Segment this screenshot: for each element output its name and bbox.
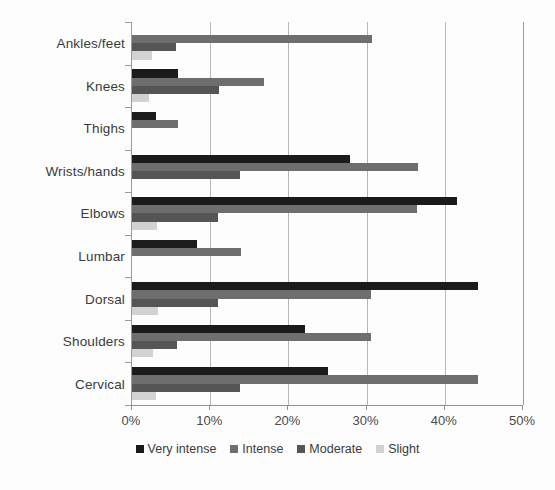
x-axis-tick-label: 30% — [353, 413, 379, 428]
bar — [132, 205, 417, 213]
bar-group — [132, 364, 555, 403]
legend-item: Moderate — [297, 442, 362, 456]
bar — [132, 78, 264, 86]
bar — [132, 341, 177, 349]
bar — [132, 222, 157, 230]
category-row: Lumbar — [0, 235, 555, 278]
legend-label: Moderate — [309, 442, 362, 456]
y-axis-tick — [125, 277, 131, 278]
x-axis-tick — [287, 405, 288, 410]
bar-group — [132, 194, 555, 233]
y-axis-tick — [125, 362, 131, 363]
legend-swatch-icon — [376, 445, 384, 453]
bar-group — [132, 322, 555, 361]
bar — [132, 35, 372, 43]
y-axis-tick — [125, 320, 131, 321]
x-axis-tick — [131, 405, 132, 410]
category-label: Wrists/hands — [45, 163, 125, 178]
category-label: Ankles/feet — [57, 36, 125, 51]
bar-chart: Ankles/feetKneesThighsWrists/handsElbows… — [0, 0, 555, 490]
category-row: Elbows — [0, 192, 555, 235]
bar — [132, 325, 305, 333]
bar — [132, 171, 240, 179]
category-row: Dorsal — [0, 277, 555, 320]
bar-group — [132, 67, 555, 106]
legend-label: Very intense — [148, 442, 217, 456]
legend-label: Slight — [388, 442, 419, 456]
x-axis-tick-label: 20% — [274, 413, 300, 428]
bar — [132, 248, 241, 256]
category-label: Elbows — [81, 206, 125, 221]
bar — [132, 155, 350, 163]
bar — [132, 282, 478, 290]
x-axis-tick — [209, 405, 210, 410]
bar — [132, 367, 328, 375]
x-axis-tick-label: 10% — [196, 413, 222, 428]
x-axis-tick — [444, 405, 445, 410]
bar — [132, 69, 178, 77]
y-axis-tick — [125, 65, 131, 66]
legend-swatch-icon — [230, 445, 238, 453]
x-axis-tick — [366, 405, 367, 410]
category-label: Thighs — [84, 121, 125, 136]
bar-group — [132, 109, 555, 148]
bar — [132, 163, 418, 171]
bar — [132, 94, 149, 102]
chart-legend: Very intenseIntenseModerateSlight — [0, 442, 555, 456]
bar — [132, 375, 478, 383]
legend-swatch-icon — [136, 445, 144, 453]
bar — [132, 307, 158, 315]
category-label: Shoulders — [63, 334, 125, 349]
category-label: Dorsal — [85, 291, 125, 306]
category-row: Wrists/hands — [0, 150, 555, 193]
bar — [132, 349, 153, 357]
bar — [132, 290, 371, 298]
category-row: Knees — [0, 65, 555, 108]
bar — [132, 384, 240, 392]
category-label: Knees — [86, 78, 125, 93]
legend-item: Very intense — [136, 442, 217, 456]
y-axis-tick — [125, 192, 131, 193]
bar-group — [132, 24, 555, 63]
y-axis-tick — [125, 150, 131, 151]
bar — [132, 333, 371, 341]
bar — [132, 392, 156, 400]
bar — [132, 51, 152, 59]
y-axis-tick — [125, 107, 131, 108]
legend-item: Slight — [376, 442, 419, 456]
x-axis-tick-label: 0% — [122, 413, 141, 428]
category-label: Lumbar — [78, 249, 125, 264]
bar-group — [132, 279, 555, 318]
bar — [132, 120, 178, 128]
legend-label: Intense — [242, 442, 283, 456]
legend-item: Intense — [230, 442, 283, 456]
bar — [132, 112, 156, 120]
bar — [132, 86, 219, 94]
bar — [132, 43, 176, 51]
category-row: Cervical — [0, 362, 555, 405]
x-axis-ticks: 0%10%20%30%40%50% — [0, 405, 555, 429]
y-axis-tick — [125, 22, 131, 23]
bar — [132, 197, 457, 205]
bar — [132, 213, 218, 221]
y-axis-tick — [125, 235, 131, 236]
x-axis-tick-label: 50% — [509, 413, 535, 428]
x-axis-tick — [522, 405, 523, 410]
category-rows: Ankles/feetKneesThighsWrists/handsElbows… — [0, 22, 555, 405]
category-row: Ankles/feet — [0, 22, 555, 65]
category-row: Shoulders — [0, 320, 555, 363]
category-label: Cervical — [75, 376, 125, 391]
bar — [132, 240, 197, 248]
x-axis-tick-label: 40% — [431, 413, 457, 428]
category-row: Thighs — [0, 107, 555, 150]
bar-group — [132, 152, 555, 191]
bar — [132, 299, 218, 307]
bar-group — [132, 237, 555, 276]
legend-swatch-icon — [297, 445, 305, 453]
